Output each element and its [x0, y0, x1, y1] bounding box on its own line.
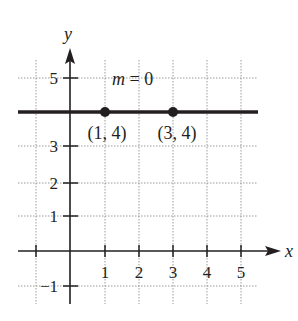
- x-axis-label: x: [284, 241, 293, 261]
- y-tick-2: 2: [50, 174, 59, 193]
- y-axis-label: y: [62, 24, 72, 44]
- slope-annotation: m = 0: [112, 69, 153, 89]
- slope-value: = 0: [125, 69, 153, 89]
- x-tick-4: 4: [203, 263, 212, 282]
- x-tick-1: 1: [101, 263, 110, 282]
- x-tick-5: 5: [237, 263, 246, 282]
- point-label-1-4: (1, 4): [88, 123, 127, 144]
- y-tick-3: 3: [50, 137, 59, 156]
- y-tick-neg1: −1: [40, 277, 58, 296]
- chart: 1 2 3 4 5 5 3 2 1 −1 x y (1, 4) (3, 4) m…: [0, 0, 298, 321]
- point-label-3-4: (3, 4): [158, 123, 197, 144]
- x-tick-3: 3: [169, 263, 178, 282]
- y-tick-1: 1: [50, 207, 59, 226]
- point-3-4: [168, 107, 178, 117]
- x-tick-2: 2: [135, 263, 144, 282]
- point-1-4: [100, 107, 110, 117]
- y-tick-5: 5: [50, 69, 59, 88]
- slope-variable: m: [112, 69, 125, 89]
